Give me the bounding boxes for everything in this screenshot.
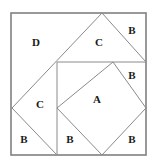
region-label-c-top: C: [95, 36, 103, 48]
region-label-c-left: C: [36, 98, 44, 110]
region-label-b-right: B: [128, 69, 136, 81]
region-label-b-top-right: B: [128, 24, 136, 36]
geometric-figure-container: D C B B A C B B B: [0, 0, 153, 162]
diagram-lines: [11, 13, 146, 155]
region-label-d: D: [32, 36, 40, 48]
region-label-b-bottom-right: B: [128, 133, 136, 145]
dissection-diagram: D C B B A C B B B: [0, 0, 153, 162]
region-label-b-bottom-middle: B: [66, 133, 74, 145]
region-label-b-bottom-left: B: [20, 133, 28, 145]
region-label-a: A: [93, 93, 101, 105]
outer-square: [11, 13, 146, 155]
